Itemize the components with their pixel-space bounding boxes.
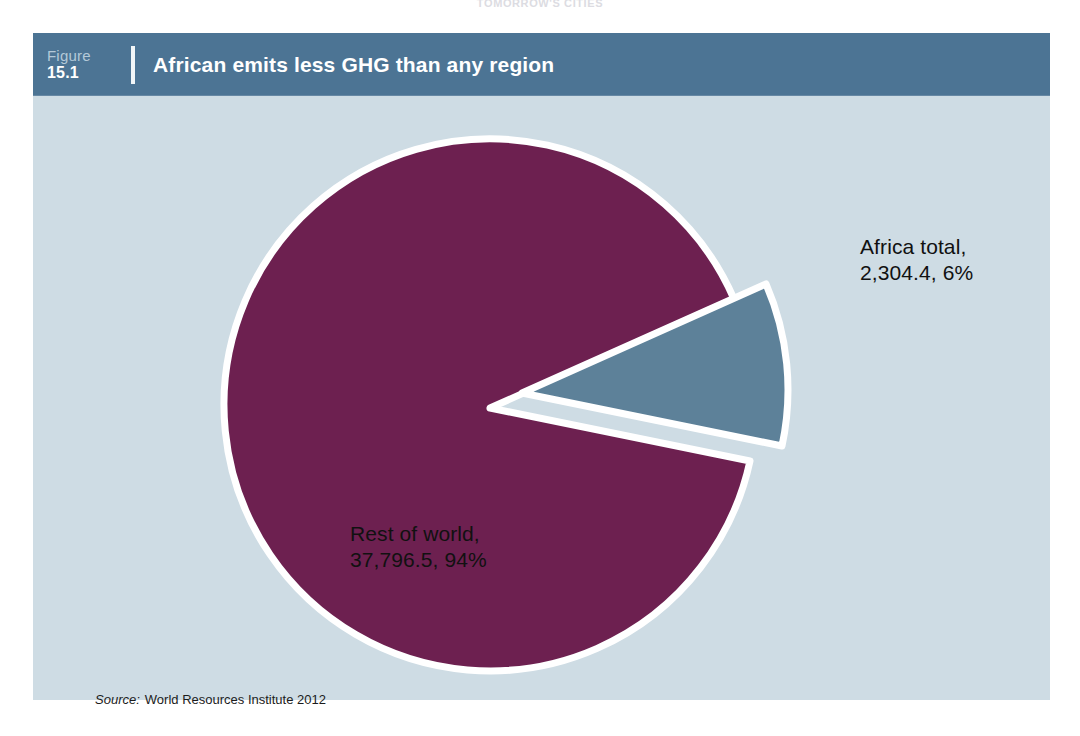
figure-panel: Figure 15.1 African emits less GHG than … [33,33,1050,700]
figure-number-block: Figure 15.1 [33,48,129,81]
figure-number-value: 15.1 [47,64,129,81]
source-label: Source: [95,692,140,707]
africa-label-line1: Africa total, [860,234,973,260]
header-divider [131,46,135,84]
figure-header-bar: Figure 15.1 African emits less GHG than … [33,33,1050,96]
figure-word-label: Figure [47,48,129,64]
data-label-africa-total: Africa total, 2,304.4, 6% [860,234,973,286]
pie-chart-area: Africa total, 2,304.4, 6% Rest of world,… [33,96,1050,700]
pie-chart-svg [33,96,1050,700]
rest-label-line2: 37,796.5, 94% [350,547,487,573]
africa-label-line2: 2,304.4, 6% [860,260,973,286]
source-text: World Resources Institute 2012 [145,692,326,707]
data-label-rest-of-world: Rest of world, 37,796.5, 94% [350,521,487,573]
figure-title: African emits less GHG than any region [153,53,554,77]
rest-label-line1: Rest of world, [350,521,487,547]
running-head: TOMORROW'S CITIES [0,0,1080,9]
source-note: Source:World Resources Institute 2012 [95,692,326,707]
